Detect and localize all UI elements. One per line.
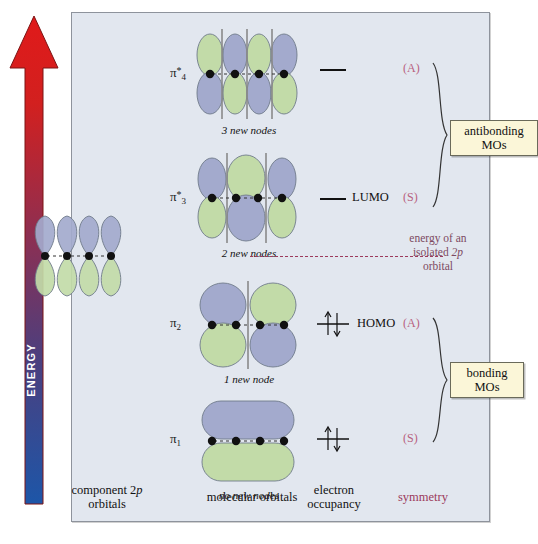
column-header-symmetry: symmetry [380,490,466,504]
column-header-component-2p: component 2porbitals [52,483,162,512]
energy-level-label-pi3: LUMO [352,190,389,205]
orbital-caption-pi4: 3 new nodes [189,124,309,136]
orbital-graphic-pi1 [194,395,304,487]
electron-occupancy-pi2 [315,310,351,338]
symmetry-label-pi4: (A) [403,61,420,76]
orbital-label-pi4: π*4 [170,65,186,82]
energy-level-line-pi4 [320,69,346,71]
orbital-caption-pi2: 1 new node [189,373,309,385]
orbital-label-pi1: π1 [170,431,181,448]
orbital-caption-pi3: 2 new nodes [189,247,309,259]
isolated-2p-energy-label: energy of an isolated 2p orbital [388,232,488,273]
orbital-graphic-pi4 [194,27,304,121]
symmetry-label-pi1: (S) [403,431,418,446]
energy-level-label-pi2: HOMO [357,316,395,331]
mo-diagram-panel: π*4 3 new nodes (A) [71,12,490,522]
electron-occupancy-pi1 [315,425,351,453]
orbital-label-pi3: π*3 [170,189,186,206]
column-header-electron-occupancy: electronoccupancy [294,483,374,512]
symmetry-label-pi3: (S) [403,190,418,205]
antibonding-brace [430,61,450,209]
orbital-label-pi2: π2 [170,315,181,332]
energy-level-line-pi3 [320,198,346,200]
bonding-mos-label: bonding MOs [450,362,524,398]
orbital-graphic-pi3 [194,151,304,245]
component-2p-orbitals-graphic [27,211,157,301]
symmetry-label-pi2: (A) [403,316,420,331]
antibonding-mos-label: antibonding MOs [450,120,538,156]
orbital-graphic-pi2 [194,279,304,371]
bonding-brace [430,316,450,444]
